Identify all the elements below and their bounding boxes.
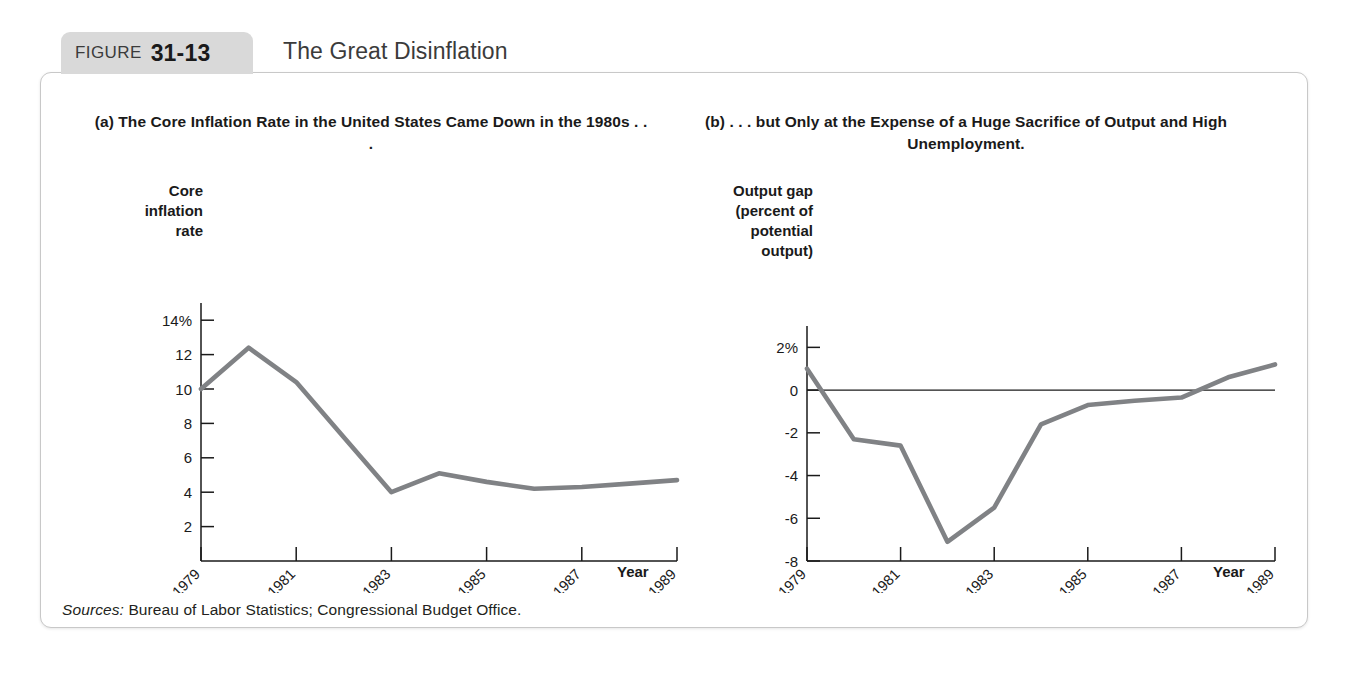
x-tick-label: 1981 <box>264 566 298 593</box>
y-tick-label: 0 <box>790 382 798 399</box>
data-series-line <box>807 364 1275 541</box>
chart-b-plot: 2%0-2-4-6-8197919811983198519871989 <box>667 73 1307 593</box>
figure-label-word: FIGURE <box>75 43 142 63</box>
chart-a-plot: 14%12108642197919811983198519871989 <box>89 73 709 593</box>
y-tick-label: 8 <box>184 415 192 432</box>
y-tick-label: -4 <box>785 467 798 484</box>
figure-number: 31-13 <box>151 40 211 67</box>
y-tick-label: 10 <box>175 381 192 398</box>
x-tick-label: 1985 <box>1056 566 1090 593</box>
sources-text: Bureau of Labor Statistics; Congressiona… <box>128 601 521 618</box>
data-series-line <box>201 348 677 492</box>
figure-heading: The Great Disinflation <box>283 38 508 65</box>
sources-note: Sources: Bureau of Labor Statistics; Con… <box>62 601 521 619</box>
y-tick-label: 6 <box>184 449 192 466</box>
y-tick-label: 12 <box>175 346 192 363</box>
figure-label-tab: FIGURE 31-13 <box>61 32 253 74</box>
y-tick-label: -2 <box>785 424 798 441</box>
sources-label: Sources: <box>62 601 124 618</box>
x-tick-label: 1987 <box>1149 566 1183 593</box>
x-tick-label: 1983 <box>359 566 393 593</box>
x-tick-label: 1985 <box>455 566 489 593</box>
y-tick-label: 2% <box>776 339 798 356</box>
figure-body-panel: (a) The Core Inflation Rate in the Unite… <box>40 72 1308 628</box>
y-tick-label: -6 <box>785 510 798 527</box>
figure-root: FIGURE 31-13 The Great Disinflation (a) … <box>0 0 1370 689</box>
x-tick-label: 1987 <box>550 566 584 593</box>
x-tick-label: 1981 <box>869 566 903 593</box>
y-tick-label: 4 <box>184 484 192 501</box>
x-tick-label: 1979 <box>169 566 203 593</box>
y-tick-label: 14% <box>162 312 192 329</box>
y-tick-label: 2 <box>184 518 192 535</box>
x-tick-label: 1979 <box>775 566 809 593</box>
x-tick-label: 1983 <box>962 566 996 593</box>
x-tick-label: 1989 <box>1243 566 1277 593</box>
